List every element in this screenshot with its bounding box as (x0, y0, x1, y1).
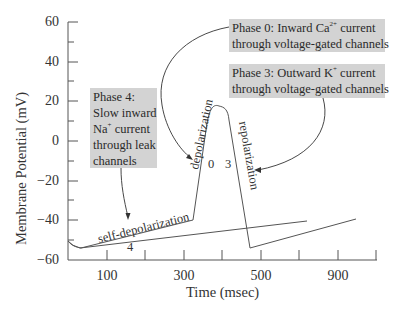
ytick-60: 60 (29, 14, 59, 30)
label-y-axis: Membrane Potential (mV) (13, 92, 30, 245)
phase4-note: Phase 4: Slow inward Na+ current through… (90, 88, 157, 168)
phase3-number: 3 (225, 157, 231, 172)
x-axis-title: Time (msec) (186, 284, 259, 301)
ytick-neg40: −40 (29, 212, 59, 228)
xtick-500: 500 (241, 268, 281, 284)
ytick-40: 40 (29, 54, 59, 70)
ytick-20: 20 (29, 93, 59, 109)
phase3-note: Phase 3: Outward K+ current through volt… (229, 64, 385, 98)
xtick-300: 300 (164, 268, 204, 284)
phase0-number: 0 (208, 157, 214, 172)
ytick-0: 0 (29, 133, 59, 149)
phase0-note: Phase 0: Inward Ca2+ current through vol… (229, 19, 385, 52)
xtick-900: 900 (318, 268, 358, 284)
xtick-100: 100 (87, 268, 127, 284)
ytick-neg20: −20 (29, 173, 59, 189)
label-repolarization: repolarization (236, 120, 262, 192)
ytick-neg60: −60 (29, 252, 59, 268)
phase4-number: 4 (127, 240, 133, 255)
arrow-phase4 (121, 168, 128, 217)
arrow-phase3 (258, 98, 325, 170)
